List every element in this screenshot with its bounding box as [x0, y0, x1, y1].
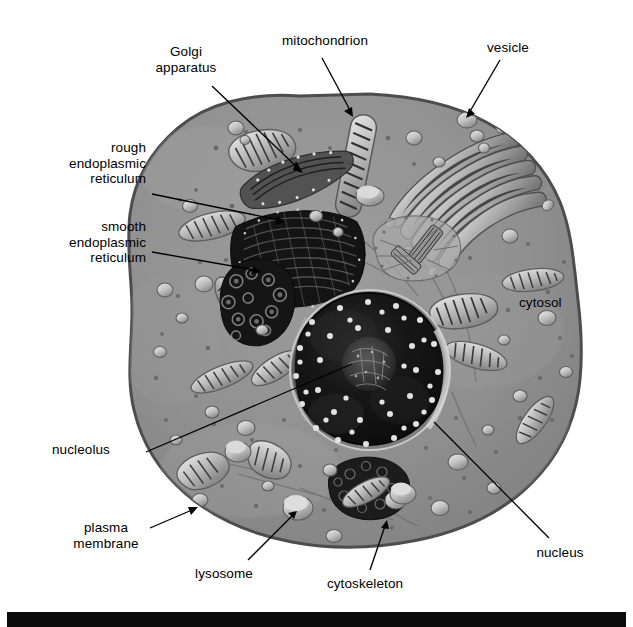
label-cytoskeleton: cytoskeleton — [310, 576, 420, 592]
figure-page: Golgi apparatus mitochondrion vesicle ro… — [0, 0, 633, 627]
cell-diagram-figure: Golgi apparatus mitochondrion vesicle ro… — [0, 0, 633, 612]
label-cytosol: cytosol — [519, 295, 587, 311]
label-mitochondrion: mitochondrion — [265, 33, 385, 49]
label-rough-endoplasmic-reticulum: rough endoplasmic reticulum — [28, 140, 146, 187]
label-plasma-membrane: plasma membrane — [56, 520, 156, 551]
leader-plasma-membrane — [150, 507, 198, 528]
leader-vesicle — [466, 60, 500, 118]
label-nucleolus: nucleolus — [52, 442, 144, 458]
label-golgi-apparatus: Golgi apparatus — [140, 44, 232, 75]
label-lysosome: lysosome — [180, 566, 268, 582]
label-smooth-endoplasmic-reticulum: smooth endoplasmic reticulum — [16, 219, 146, 266]
label-nucleus: nucleus — [520, 545, 600, 561]
footer-black-bar — [7, 612, 626, 627]
label-vesicle: vesicle — [470, 40, 546, 56]
